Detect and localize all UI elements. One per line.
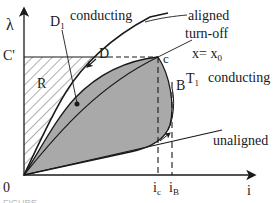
- ic-subscript: c: [157, 187, 161, 197]
- d1-subscript: 1: [60, 21, 65, 31]
- aligned-label: aligned: [188, 8, 229, 23]
- d1-dot: [75, 102, 80, 107]
- t1-label: T1: [186, 71, 199, 88]
- conducting-right-label: conducting: [208, 70, 270, 85]
- ib-subscript: B: [173, 187, 179, 197]
- c-prime-label: C': [3, 48, 15, 63]
- c-point-label: c: [163, 51, 169, 66]
- figure-caption-partial: FIGURE ...: [3, 198, 47, 203]
- d1-label: D1: [50, 14, 65, 31]
- d1-main: D: [50, 14, 60, 29]
- b-label: B: [176, 78, 185, 93]
- ic-label: ic: [153, 180, 161, 197]
- origin-label: 0: [3, 180, 10, 195]
- d-label: D: [99, 46, 109, 61]
- i-axis-label: i: [247, 183, 251, 198]
- x-eq-main: x= x: [192, 46, 217, 61]
- lambda-i-diagram: λ i 0 C' R D1 conducting D aligned turn-…: [0, 0, 277, 203]
- x-eq-subscript: 0: [217, 53, 222, 63]
- ib-label: iB: [169, 180, 179, 197]
- t1-subscript: 1: [195, 78, 200, 88]
- turn-off-label: turn-off: [185, 26, 229, 41]
- unaligned-label: unaligned: [213, 133, 268, 148]
- conducting-top-label: conducting: [70, 8, 132, 23]
- lambda-axis-label: λ: [6, 16, 14, 33]
- r-region-label: R: [37, 76, 47, 91]
- x-equals-x0-label: x= x0: [192, 46, 222, 63]
